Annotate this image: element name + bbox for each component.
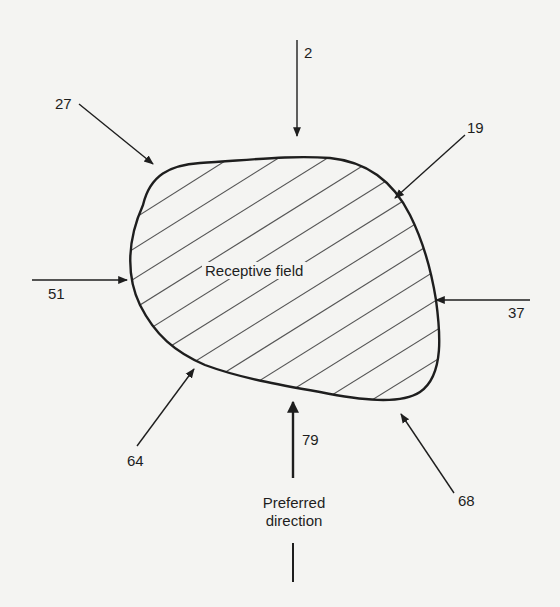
- preferred-direction-line2: direction: [239, 512, 349, 530]
- receptive-field-label: Receptive field: [202, 262, 306, 279]
- direction-value-bottom-right: 68: [458, 493, 475, 508]
- arrow-top-right-icon: [395, 135, 465, 198]
- direction-value-right: 37: [508, 305, 525, 320]
- arrow-bottom-left-icon: [137, 369, 194, 446]
- preferred-direction-label: Preferred direction: [239, 494, 349, 530]
- direction-value-left: 51: [48, 286, 65, 301]
- arrow-bottom-right-icon: [401, 414, 454, 493]
- direction-value-top-left: 27: [55, 96, 72, 111]
- direction-value-bottom-left: 64: [127, 453, 144, 468]
- direction-value-top-right: 19: [467, 120, 484, 135]
- arrow-top-left-icon: [79, 104, 153, 164]
- direction-value-bottom: 79: [302, 432, 319, 447]
- preferred-direction-line1: Preferred: [239, 494, 349, 512]
- receptive-field-hatching: [100, 110, 480, 468]
- direction-value-top: 2: [304, 45, 312, 60]
